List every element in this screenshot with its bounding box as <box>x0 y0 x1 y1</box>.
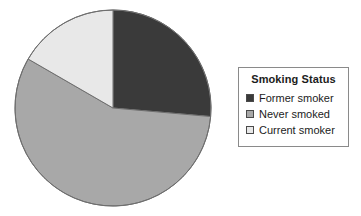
legend-title: Smoking Status <box>239 73 348 86</box>
pie-svg <box>0 0 228 216</box>
legend-swatch-current-smoker <box>246 126 254 134</box>
legend-swatch-former-smoker <box>246 94 254 102</box>
legend-item-former-smoker[interactable]: Former smoker <box>239 90 348 106</box>
legend-label-never-smoked: Never smoked <box>259 108 330 121</box>
legend-item-current-smoker[interactable]: Current smoker <box>239 122 348 138</box>
legend: Smoking Status Former smoker Never smoke… <box>238 67 349 147</box>
pie-chart-figure: Smoking Status Former smoker Never smoke… <box>0 0 361 216</box>
pie-plot-area <box>0 0 228 216</box>
pie-slice-group <box>15 10 211 206</box>
legend-swatch-never-smoked <box>246 110 254 118</box>
pie-slice-former-smoker[interactable] <box>113 10 211 117</box>
legend-item-never-smoked[interactable]: Never smoked <box>239 106 348 122</box>
legend-label-current-smoker: Current smoker <box>259 124 335 137</box>
legend-label-former-smoker: Former smoker <box>259 92 334 105</box>
